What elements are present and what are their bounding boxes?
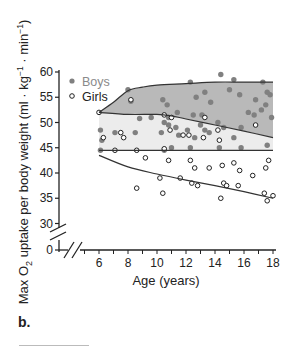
y-tick-label: 40 (40, 166, 54, 180)
girls-data-point (158, 176, 163, 181)
x-tick-label: 6 (96, 256, 103, 270)
boys-data-point (149, 115, 154, 120)
y-tick-label: 45 (40, 141, 54, 155)
boys-data-point (202, 90, 207, 95)
girls-data-point (262, 191, 267, 196)
boys-data-point (192, 135, 197, 140)
girls-data-point (232, 161, 237, 166)
boys-data-point (218, 72, 223, 77)
girls-data-point (253, 123, 258, 128)
y-tick-label: 0 (46, 243, 53, 257)
girls-data-point (161, 191, 166, 196)
girls-data-point (121, 135, 126, 140)
boys-data-point (269, 115, 274, 120)
boys-data-point (159, 130, 164, 135)
x-tick-label: 12 (179, 256, 193, 270)
girls-data-point (203, 115, 208, 120)
y-tick-label: 30 (40, 217, 54, 231)
girls-data-point (220, 163, 225, 168)
x-tick-label: 10 (150, 256, 164, 270)
y-axis-ticks: 605550454035300 (40, 65, 59, 257)
girls-data-point (195, 183, 200, 188)
girls-data-point (216, 128, 221, 133)
boys-data-point (246, 110, 251, 115)
girls-data-point (207, 166, 212, 171)
divider (19, 345, 89, 346)
girls-data-point (143, 156, 148, 161)
boys-data-point (112, 130, 117, 135)
girls-data-point (201, 135, 206, 140)
x-tick-label: 8 (125, 256, 132, 270)
boys-data-point (238, 145, 243, 150)
boys-data-point (217, 145, 222, 150)
boys-data-point (208, 100, 213, 105)
boys-data-point (133, 130, 138, 135)
x-axis-title: Age (years) (132, 273, 199, 288)
boys-data-point (215, 120, 220, 125)
girls-data-point (217, 138, 222, 143)
girls-data-point (192, 166, 197, 171)
girls-data-point (134, 186, 139, 191)
boys-data-point (265, 143, 270, 148)
girls-data-point (237, 168, 242, 173)
vo2max-scatter-chart: 605550454035300 681012141618 Age (years)… (0, 0, 297, 347)
girls-lower-bound-line (99, 155, 273, 198)
girls-data-point (181, 133, 186, 138)
girls-data-point (250, 173, 255, 178)
girls-data-point (168, 128, 173, 133)
y-axis-title: Max O2 uptake per body weight (ml · kg−1… (15, 20, 34, 305)
boys-data-point (231, 135, 236, 140)
girls-data-point (263, 166, 268, 171)
boys-data-point (227, 87, 232, 92)
girls-data-point (129, 97, 134, 102)
boys-data-point (98, 127, 103, 132)
boys-data-point (237, 92, 242, 97)
girls-data-point (187, 133, 192, 138)
boys-data-point (191, 112, 196, 117)
boys-legend-label: Boys (82, 75, 110, 89)
boys-data-point (251, 112, 256, 117)
boys-data-point (164, 102, 169, 107)
x-axis-ticks: 681012141618 (85, 250, 280, 270)
y-tick-label: 50 (40, 116, 54, 130)
boys-data-point (185, 127, 190, 132)
x-tick-label: 16 (237, 256, 251, 270)
legend: Boys Girls (69, 75, 109, 104)
girls-data-point (101, 135, 106, 140)
panel-label: b. (18, 314, 30, 330)
boys-data-point (175, 110, 180, 115)
boys-data-point (263, 102, 268, 107)
boys-data-point (160, 97, 165, 102)
boys-data-point (198, 122, 203, 127)
girls-data-point (236, 183, 241, 188)
boys-data-point (259, 107, 264, 112)
x-tick-label: 14 (208, 256, 222, 270)
girls-data-point (266, 158, 271, 163)
boys-data-point (267, 92, 272, 97)
boys-legend-marker (69, 78, 74, 83)
y-tick-label: 35 (40, 191, 54, 205)
girls-legend-marker (70, 94, 75, 99)
girls-legend-label: Girls (82, 90, 108, 104)
girls-data-point (166, 158, 171, 163)
boys-data-point (207, 130, 212, 135)
girls-data-point (118, 130, 123, 135)
boys-data-point (137, 116, 142, 121)
y-tick-label: 60 (40, 65, 54, 79)
y-tick-label: 55 (40, 90, 54, 104)
girls-data-point (219, 196, 224, 201)
boys-data-point (193, 95, 198, 100)
boys-data-point (253, 97, 258, 102)
boys-data-point (188, 145, 193, 150)
boys-data-point (169, 145, 174, 150)
boys-data-point (173, 125, 178, 130)
x-tick-label: 18 (266, 256, 280, 270)
boys-data-point (166, 122, 171, 127)
girls-data-point (188, 158, 193, 163)
girls-data-point (265, 198, 270, 203)
boys-data-point (238, 125, 243, 130)
